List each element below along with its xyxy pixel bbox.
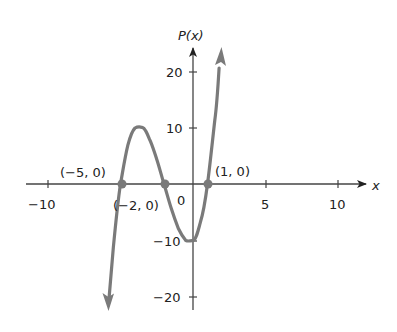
- x-axis-label: x: [371, 178, 380, 193]
- root-point-neg5: [118, 180, 127, 189]
- root-point-1: [204, 180, 213, 189]
- point-label-neg5: (−5, 0): [60, 165, 106, 180]
- x-tick-label-10: 10: [329, 197, 346, 212]
- point-label-1: (1, 0): [215, 164, 250, 179]
- polynomial-graph: P(x) x −10 5 10 0 20 10 −10 −20 (−5, 0) …: [0, 0, 397, 332]
- y-tick-label-neg20: −20: [153, 290, 180, 305]
- y-tick-label-10: 10: [166, 121, 183, 136]
- point-label-neg2: (−2, 0): [113, 198, 159, 213]
- y-axis-label: P(x): [178, 28, 204, 43]
- y-tick-label-neg10: −10: [153, 234, 180, 249]
- y-tick-label-20: 20: [166, 65, 183, 80]
- x-tick-label-neg10: −10: [28, 197, 55, 212]
- curve-arrow-top-icon: [215, 47, 226, 66]
- root-point-neg2: [161, 180, 170, 189]
- x-tick-label-5: 5: [261, 197, 269, 212]
- origin-label: 0: [177, 193, 185, 208]
